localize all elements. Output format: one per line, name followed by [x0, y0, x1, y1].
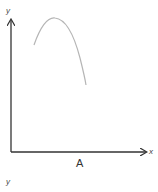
y-axis-label: y: [6, 7, 10, 15]
parabola-curve: [34, 18, 86, 85]
figure-caption: A: [76, 158, 83, 169]
graph-figure-a: y x A y: [0, 0, 158, 192]
x-axis-label: x: [149, 148, 153, 156]
next-figure-y-label: y: [6, 178, 10, 186]
